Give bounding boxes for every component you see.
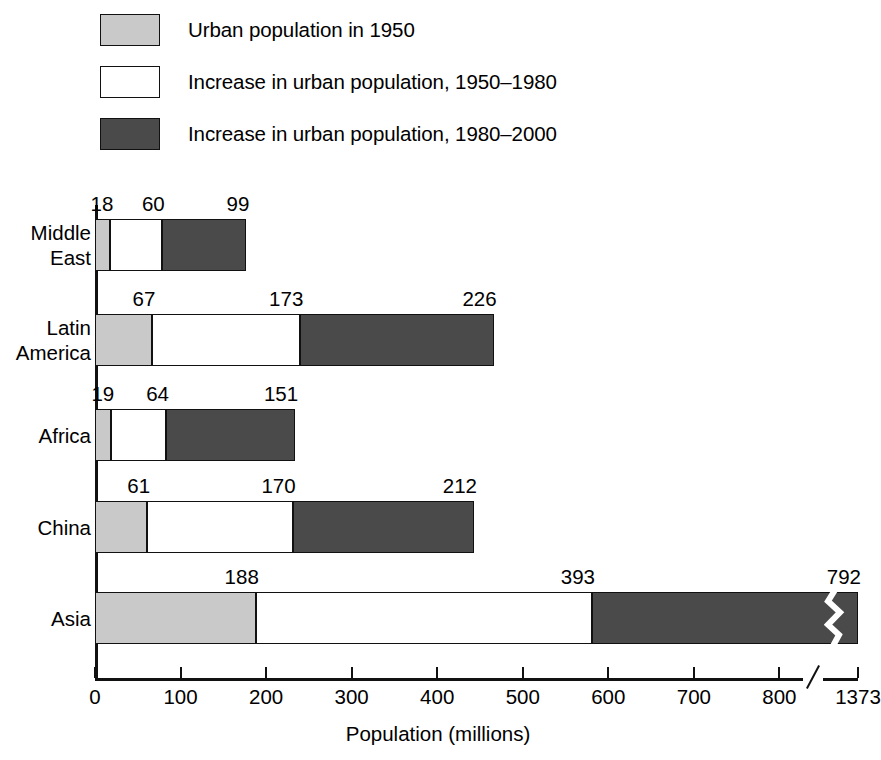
category-label: Africa — [0, 423, 91, 448]
x-axis-line — [95, 678, 858, 681]
bar-segment — [110, 219, 161, 271]
segment-value-label: 173 — [269, 288, 303, 310]
segment-value-label: 60 — [142, 193, 165, 215]
segment-value-label: 393 — [561, 566, 595, 588]
bar-segment — [152, 314, 300, 366]
bar-segment — [293, 501, 474, 553]
bar-segment — [95, 219, 110, 271]
x-axis-tick — [693, 667, 695, 678]
bar-segment — [256, 592, 592, 644]
segment-value-label: 99 — [227, 193, 250, 215]
x-axis-tick — [94, 667, 96, 678]
bar-segment — [162, 219, 247, 271]
x-axis-tick-label: 800 — [762, 686, 796, 708]
segment-value-label: 226 — [462, 288, 496, 310]
segment-value-label: 64 — [146, 383, 169, 405]
segment-value-label: 170 — [261, 475, 295, 497]
x-axis-tick-label: 300 — [335, 686, 369, 708]
segment-value-label: 18 — [91, 193, 114, 215]
segment-value-label: 151 — [264, 383, 298, 405]
bar-segment — [111, 409, 166, 461]
x-axis-tick — [436, 667, 438, 678]
x-axis-tick-label: 100 — [163, 686, 197, 708]
segment-value-label: 67 — [133, 288, 156, 310]
bar-segment — [166, 409, 295, 461]
bar-segment — [300, 314, 493, 366]
category-label: China — [0, 515, 91, 540]
bar-segment — [95, 314, 152, 366]
x-axis-tick-label: 500 — [506, 686, 540, 708]
x-axis-tick — [857, 667, 859, 678]
category-label: Middle East — [0, 220, 91, 270]
bar-segment — [592, 592, 858, 644]
segment-value-label: 792 — [827, 566, 861, 588]
segment-value-label: 188 — [225, 566, 259, 588]
category-label: Latin America — [0, 315, 91, 365]
x-axis-tick-label: 1373 — [835, 686, 881, 708]
bar-segment — [95, 501, 147, 553]
bar-segment — [95, 409, 111, 461]
segment-value-label: 61 — [127, 475, 150, 497]
segment-value-label: 19 — [91, 383, 114, 405]
x-axis-tick — [180, 667, 182, 678]
category-label: Asia — [0, 606, 91, 631]
x-axis-title: Population (millions) — [0, 722, 876, 746]
x-axis-tick-label: 600 — [591, 686, 625, 708]
x-axis-tick — [778, 667, 780, 678]
x-axis-tick — [607, 667, 609, 678]
x-axis-tick-label: 200 — [249, 686, 283, 708]
x-axis-tick — [522, 667, 524, 678]
x-axis-tick-label: 700 — [677, 686, 711, 708]
x-axis-tick — [351, 667, 353, 678]
x-axis-tick-label: 400 — [420, 686, 454, 708]
x-axis-tick-label: 0 — [89, 686, 100, 708]
bar-segment — [95, 592, 256, 644]
bar-segment — [147, 501, 292, 553]
segment-value-label: 212 — [443, 475, 477, 497]
x-axis-tick — [265, 667, 267, 678]
